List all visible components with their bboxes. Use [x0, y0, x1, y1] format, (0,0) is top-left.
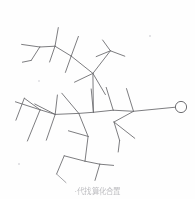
methyl-c1-down-b: [114, 122, 135, 138]
methyl-c2-up: [106, 87, 113, 110]
methyl-u3-down: [50, 46, 55, 62]
methyl-l3-right: [100, 164, 114, 165]
upper-branch-bonds: [40, 46, 94, 112]
methyl-u1-tail: [93, 73, 106, 94]
bond-terminal-to-c1: [134, 107, 176, 111]
bond-c2-to-c3: [93, 110, 113, 112]
skeletal-structure-canvas: [0, 0, 195, 199]
methyl-c5-up: [55, 95, 57, 114]
methyl-u1-left: [75, 73, 93, 82]
terminal-methyl-bonds: [15, 28, 134, 183]
figure-root: ·代找算化合置: [0, 0, 195, 199]
methyl-u2-down: [65, 56, 71, 72]
methyl-c5-tail: [46, 114, 55, 140]
methyl-c1-up: [127, 89, 134, 112]
methyl-u4-left: [22, 44, 40, 47]
methyl-c3-aux: [62, 93, 79, 113]
main-chain-bonds: [40, 107, 175, 114]
bond-c1-to-r1: [114, 111, 134, 122]
methyl-ur-b: [110, 51, 124, 56]
bond-u3-to-u4: [40, 46, 55, 47]
bond-u1-to-u2: [71, 56, 93, 73]
terminal-circle-icon: [175, 101, 186, 112]
caption-text: ·代找算化合置: [75, 187, 121, 196]
methyl-u4-down: [31, 47, 40, 60]
methyl-u2-up: [71, 36, 78, 56]
methyl-c6-down-b: [27, 110, 40, 141]
methyl-ur-c: [103, 40, 111, 51]
bond-c1-to-c2: [113, 110, 133, 111]
methyl-l2-right: [85, 161, 100, 164]
methyl-u3-up: [55, 28, 58, 47]
bond-c3-to-c4: [79, 112, 94, 113]
methyl-c6-left: [15, 102, 40, 110]
methyl-l2-down: [57, 156, 65, 174]
methyl-l3-tail: [57, 174, 66, 183]
bond-c4-to-l1: [79, 113, 88, 136]
methyl-c1-down-c: [118, 140, 119, 152]
bond-u2-to-u3: [55, 46, 71, 56]
bond-c4-to-c5: [55, 113, 79, 114]
methyl-l2-left: [64, 156, 85, 161]
methyl-u4-tail: [22, 60, 31, 62]
methyl-l1-left: [68, 131, 88, 137]
bond-l1-to-l2: [85, 136, 88, 161]
methyl-c6-up: [24, 98, 40, 110]
caption-row: ·代找算化合置: [0, 186, 195, 199]
methyl-l3-down: [95, 164, 100, 180]
methyl-c6-down-a: [16, 98, 24, 120]
